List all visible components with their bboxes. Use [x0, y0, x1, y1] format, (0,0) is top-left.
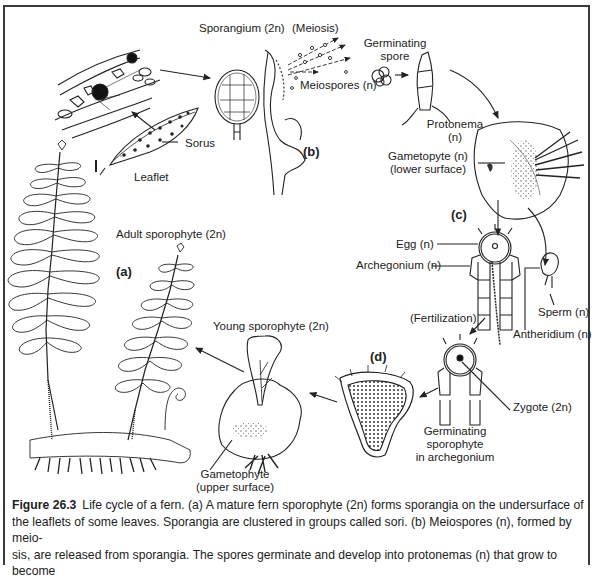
label-adult-sporophyte: Adult sporophyte (2n)	[116, 228, 226, 241]
label-zygote: Zygote (2n)	[513, 401, 572, 414]
label-sperm: Sperm (n)	[538, 306, 589, 319]
label-archegonium: Archegonium (n)	[356, 259, 441, 272]
label-fertilization: (Fertilization)	[410, 312, 476, 325]
zygote-icon	[438, 334, 482, 425]
panel-label-b: (b)	[303, 145, 320, 158]
germinating-sporophyte-icon	[335, 365, 413, 457]
figure-number: Figure 26.3	[12, 498, 76, 512]
panel-label-c: (c)	[451, 208, 467, 221]
caption-line-1: Figure 26.3Life cycle of a fern. (a) A m…	[12, 497, 590, 514]
figure-caption: Figure 26.3Life cycle of a fern. (a) A m…	[12, 497, 590, 579]
label-germinating-sporophyte: Germinating sporophyte in archegonium	[405, 425, 505, 464]
leaflet-icon	[96, 108, 198, 175]
caption-line-2: the leaflets of some leaves. Sporangia a…	[12, 514, 590, 547]
label-sorus: Sorus	[185, 137, 215, 150]
adult-sporophyte-icon	[8, 140, 194, 474]
label-young-sporophyte: Young sporophyte (2n)	[213, 320, 329, 333]
label-protonema: Protonema (n)	[420, 118, 490, 144]
label-meiospores: Meiospores (n)	[300, 79, 377, 92]
sorus-cross-section-icon	[55, 50, 160, 138]
label-egg: Egg (n)	[396, 238, 434, 251]
label-sporangium: Sporangium (2n)	[199, 22, 285, 35]
archegonium-icon	[470, 224, 520, 345]
young-sporophyte-icon	[219, 336, 301, 474]
panel-label-d: (d)	[370, 350, 387, 363]
label-antheridium: Antheridium (n)	[513, 328, 592, 341]
label-meiosis: (Meiosis)	[292, 22, 339, 35]
caption-line-3: sis, are released from sporangia. The sp…	[12, 547, 590, 579]
sporangium-icon	[215, 70, 259, 140]
label-gametophyte-upper: Gametophyte (upper surface)	[180, 468, 290, 494]
label-gametophyte-lower: Gametopyte (n) (lower surface)	[378, 150, 478, 176]
label-germinating-spore: Germinating spore	[355, 37, 435, 63]
label-leaflet: Leaflet	[134, 171, 169, 184]
antheridium-icon	[541, 253, 558, 288]
panel-label-a: (a)	[116, 265, 132, 278]
gametophyte-lower-surface-icon	[474, 122, 584, 219]
